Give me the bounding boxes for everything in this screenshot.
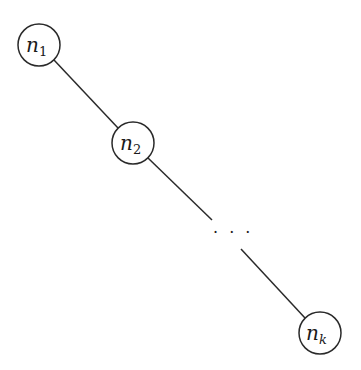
edge-n1-n2 bbox=[54, 60, 118, 128]
node-n1-label: n bbox=[26, 33, 39, 57]
node-nk-subscript: k bbox=[319, 332, 327, 347]
path-diagram: n1 n2 · · · nk bbox=[0, 0, 361, 370]
ellipsis: · · · bbox=[213, 223, 253, 242]
node-nk-label: n bbox=[306, 321, 319, 345]
node-n2-label: n bbox=[120, 131, 133, 155]
edge-n2-ellipsis bbox=[148, 158, 212, 220]
node-n2-subscript: 2 bbox=[133, 142, 141, 157]
node-n1-subscript: 1 bbox=[39, 44, 47, 59]
node-n2: n2 bbox=[112, 122, 154, 164]
edge-ellipsis-nk bbox=[241, 249, 305, 318]
node-n1: n1 bbox=[18, 24, 60, 66]
node-nk: nk bbox=[299, 312, 341, 354]
